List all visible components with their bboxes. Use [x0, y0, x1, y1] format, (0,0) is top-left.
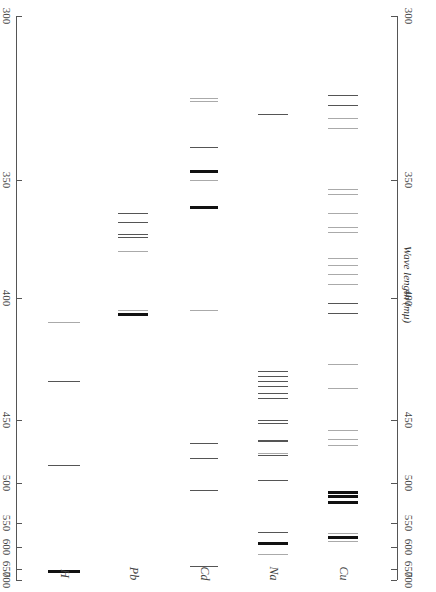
- spectral-line-cd: [190, 458, 218, 459]
- spectral-line-h: [48, 381, 80, 382]
- right-axis: [397, 16, 398, 580]
- spectral-line-cu: [328, 227, 358, 228]
- right-tick: [391, 547, 397, 548]
- right-tick: [391, 298, 397, 299]
- spectral-line-na: [258, 480, 288, 481]
- spectral-line-cu: [328, 105, 358, 106]
- left-tick: [16, 569, 22, 570]
- left-tick: [16, 547, 22, 548]
- spectral-line-cu: [328, 274, 358, 275]
- spectral-line-na: [258, 455, 288, 456]
- spectral-line-pb: [118, 213, 148, 214]
- left-tick: [16, 483, 22, 484]
- spectral-line-cd: [190, 310, 218, 311]
- left-tick-label: 400: [1, 285, 13, 311]
- left-tick: [16, 16, 22, 17]
- spectral-line-cd: [190, 98, 218, 99]
- right-tick: [391, 16, 397, 17]
- column-label-na: Na: [266, 564, 281, 584]
- spectral-line-cu: [328, 118, 358, 119]
- spectral-line-cd: [190, 206, 218, 209]
- spectral-line-cu: [328, 303, 358, 304]
- right-tick-label: 700: [403, 567, 415, 592]
- spectral-line-pb: [118, 222, 148, 223]
- spectral-line-pb: [118, 237, 148, 238]
- spectral-line-cu: [328, 430, 358, 431]
- spectral-line-h: [48, 322, 80, 323]
- spectral-line-cd: [190, 101, 218, 102]
- spectral-line-cd: [190, 443, 218, 444]
- spectral-line-na: [258, 376, 288, 377]
- left-tick-label: 300: [1, 3, 13, 29]
- left-tick-label: 350: [1, 167, 13, 193]
- spectral-line-cu: [328, 128, 358, 129]
- spectral-line-cu: [328, 313, 358, 314]
- spectral-line-na: [258, 371, 288, 372]
- spectral-line-cu: [328, 364, 358, 365]
- left-tick-label: 550: [1, 510, 13, 536]
- spectral-line-na: [258, 398, 288, 399]
- spectral-line-cu: [328, 439, 358, 440]
- spectral-line-cu: [328, 501, 358, 504]
- right-tick: [391, 483, 397, 484]
- spectral-line-na: [258, 393, 288, 394]
- spectral-line-na: [258, 453, 288, 454]
- column-label-pb: Pb: [126, 564, 141, 584]
- spectral-line-cu: [328, 189, 358, 190]
- left-tick: [16, 180, 22, 181]
- right-tick: [391, 523, 397, 524]
- column-label-cu: Cu: [336, 564, 351, 584]
- right-tick: [391, 180, 397, 181]
- right-tick-label: 300: [403, 3, 415, 29]
- left-tick-label: 500: [1, 470, 13, 496]
- spectral-line-cu: [328, 284, 358, 285]
- spectral-line-cu: [328, 388, 358, 389]
- spectral-line-cu: [328, 232, 358, 233]
- spectral-line-cu: [328, 533, 358, 534]
- right-tick-label: 500: [403, 470, 415, 496]
- right-tick: [391, 580, 397, 581]
- spectral-line-pb: [118, 310, 148, 311]
- spectral-line-pb: [118, 313, 148, 316]
- left-tick-label: 450: [1, 407, 13, 433]
- spectral-line-cd: [190, 170, 218, 173]
- right-tick-label: 350: [403, 167, 415, 193]
- spectral-line-na: [258, 420, 288, 421]
- spectral-line-cd: [190, 490, 218, 491]
- spectral-line-na: [258, 542, 288, 545]
- left-tick: [16, 523, 22, 524]
- column-label-h: H: [57, 564, 72, 584]
- spectral-line-na: [258, 532, 288, 533]
- spectral-line-na: [258, 554, 288, 555]
- spectral-line-cd: [190, 147, 218, 148]
- spectral-line-na: [258, 441, 288, 442]
- left-tick-label: 700: [1, 567, 13, 592]
- spectral-line-cu: [328, 495, 358, 498]
- right-tick: [391, 569, 397, 570]
- spectral-line-na: [258, 386, 288, 387]
- spectral-line-na: [258, 381, 288, 382]
- spectral-line-cu: [328, 491, 358, 494]
- spectral-line-cu: [328, 445, 358, 446]
- spectral-line-pb: [118, 251, 148, 252]
- column-label-cd: Cd: [197, 564, 212, 584]
- spectral-line-cu: [328, 95, 358, 96]
- left-tick: [16, 420, 22, 421]
- spectral-line-cu: [328, 541, 358, 542]
- right-tick-label: 450: [403, 407, 415, 433]
- spectral-line-cu: [328, 265, 358, 266]
- spectral-line-pb: [118, 234, 148, 235]
- spectral-line-cu: [328, 536, 358, 539]
- spectral-line-cu: [328, 213, 358, 214]
- left-tick: [16, 298, 22, 299]
- spectral-line-cd: [190, 180, 218, 181]
- left-tick: [16, 580, 22, 581]
- spectral-line-na: [258, 114, 288, 115]
- spectral-line-cu: [328, 258, 358, 259]
- right-tick: [391, 420, 397, 421]
- spectral-line-h: [48, 465, 80, 466]
- spectral-line-na: [258, 423, 288, 424]
- right-tick-label: 550: [403, 510, 415, 536]
- spectral-line-cu: [328, 194, 358, 195]
- axis-title: Wave length (mμ): [402, 246, 414, 346]
